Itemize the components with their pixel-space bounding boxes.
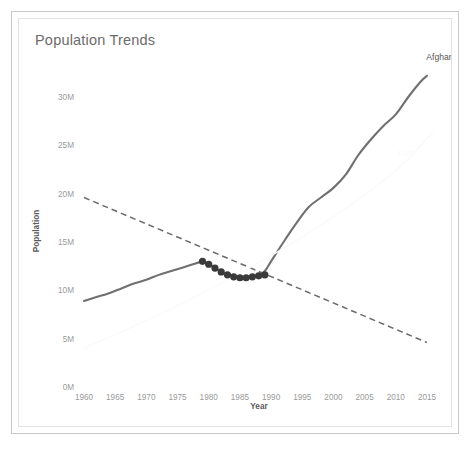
data-point-marker[interactable]	[249, 273, 256, 280]
series-label-faint: Faint	[398, 148, 418, 158]
data-point-marker[interactable]	[255, 272, 262, 279]
x-axis-tick: 1970	[137, 393, 156, 402]
series-label-afghanistan: Afghanistan	[426, 52, 451, 62]
x-axis-tick: 2015	[418, 393, 437, 402]
chart-card: Population Trends 0M5M10M15M20M25M30M 19…	[18, 18, 452, 427]
x-axis-tick: 2000	[324, 393, 343, 402]
x-axis-title: Year	[250, 402, 268, 411]
x-axis-tick: 1960	[75, 393, 94, 402]
y-axis-tick: 25M	[58, 141, 74, 150]
data-point-marker[interactable]	[205, 261, 212, 268]
data-point-marker[interactable]	[199, 258, 206, 265]
population-trends-line-chart[interactable]: 0M5M10M15M20M25M30M 19601965197019751980…	[19, 19, 451, 426]
x-axis-tick: 1985	[231, 393, 250, 402]
y-axis-tick: 0M	[63, 383, 75, 392]
y-axis-tick: 15M	[58, 238, 74, 247]
series-line-faint	[84, 132, 433, 349]
y-axis-tick: 5M	[63, 335, 75, 344]
y-axis-tick: 20M	[58, 190, 74, 199]
data-point-marker[interactable]	[261, 271, 268, 278]
x-axis-tick: 1990	[262, 393, 281, 402]
data-point-marker[interactable]	[218, 268, 225, 275]
series-line-trend	[84, 198, 427, 343]
series-line-afghanistan	[84, 76, 427, 301]
data-point-marker[interactable]	[236, 274, 243, 281]
y-axis-tick-labels: 0M5M10M15M20M25M30M	[58, 93, 74, 392]
series-lines	[84, 76, 433, 349]
data-point-marker[interactable]	[224, 271, 231, 278]
x-axis-tick: 1980	[200, 393, 219, 402]
y-axis-tick: 30M	[58, 93, 74, 102]
dashboard-outer-frame: Population Trends 0M5M10M15M20M25M30M 19…	[11, 11, 459, 434]
y-axis-title: Population	[32, 210, 41, 252]
data-point-marker[interactable]	[230, 273, 237, 280]
y-axis-tick: 10M	[58, 286, 74, 295]
x-axis-tick: 1995	[293, 393, 312, 402]
x-axis-tick: 2005	[356, 393, 375, 402]
x-axis-tick: 1975	[168, 393, 187, 402]
x-axis-tick: 1965	[106, 393, 125, 402]
x-axis-tick: 2010	[387, 393, 406, 402]
x-axis-tick-labels: 1960196519701975198019851990199520002005…	[75, 393, 437, 402]
data-point-marker[interactable]	[243, 274, 250, 281]
data-point-marker[interactable]	[211, 265, 218, 272]
